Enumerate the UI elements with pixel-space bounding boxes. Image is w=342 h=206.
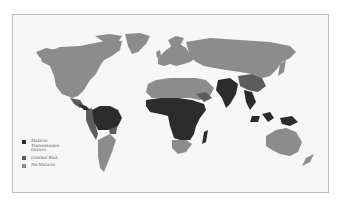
legend-label: Limited Risk — [31, 156, 58, 161]
legend-label: No Malaria — [31, 163, 55, 168]
legend-item-limited: Limited Risk — [22, 156, 71, 161]
legend-swatch-transmission — [22, 140, 26, 144]
legend-swatch-none — [22, 164, 26, 168]
legend-label: Malaria Transmission Occurs — [31, 139, 71, 153]
legend-swatch-limited — [22, 156, 26, 160]
legend-item-transmission: Malaria Transmission Occurs — [22, 139, 71, 153]
legend-item-none: No Malaria — [22, 163, 71, 168]
world-map — [0, 0, 342, 206]
map-legend: Malaria Transmission Occurs Limited Risk… — [22, 139, 71, 171]
